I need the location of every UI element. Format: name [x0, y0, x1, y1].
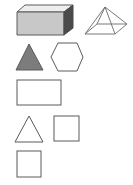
- cuboid-front-face: [17, 12, 64, 35]
- cuboid-shape: [17, 5, 73, 35]
- shapes-diagram: [0, 0, 133, 185]
- filled-triangle-shape: [16, 44, 43, 70]
- hexagon-shape: [51, 43, 83, 71]
- square-bottom-shape: [17, 151, 41, 177]
- rectangle-shape: [17, 80, 61, 105]
- outline-triangle-shape: [15, 116, 43, 142]
- pyramid-shape: [85, 7, 127, 34]
- square-right-shape: [54, 116, 79, 141]
